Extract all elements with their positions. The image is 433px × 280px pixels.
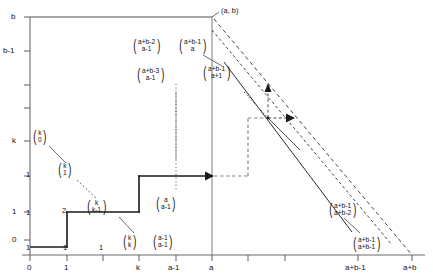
paren-left: ( bbox=[58, 164, 61, 176]
x-tick-label-k: k bbox=[136, 264, 140, 272]
paren-left: ( bbox=[153, 236, 156, 248]
binom-bottom: k bbox=[128, 242, 131, 249]
lattice-number: 1 bbox=[26, 243, 30, 252]
arrow-head-right-at-a bbox=[205, 172, 214, 181]
paren-left: ( bbox=[123, 236, 126, 248]
paren-left: ( bbox=[137, 69, 140, 81]
y-tick-label-b-1: b-1 bbox=[3, 47, 15, 55]
lattice-path-figure: b b-1 k 1 0 0 1 k a-1 a a+b-1 a+b (a, b)… bbox=[0, 0, 433, 280]
binom-bottom: a+b-2 bbox=[334, 210, 351, 217]
x-tick-label-0: 0 bbox=[27, 264, 31, 272]
lattice-number: 1 bbox=[99, 243, 103, 252]
y-tick-label-k: k bbox=[12, 137, 16, 145]
binomial-a-minus-1-choose-a-minus-1: ( a-1 a-1 ) bbox=[152, 235, 174, 249]
binomial-a-choose-a-minus-1: ( a a-1 ) bbox=[155, 197, 177, 211]
paren-left: ( bbox=[329, 204, 332, 216]
x-tick-label-1: 1 bbox=[64, 264, 68, 272]
binomial-a-plus-b-1-choose-a: ( a+b-1 a ) bbox=[178, 39, 207, 53]
paren-left: ( bbox=[33, 131, 36, 143]
paren-right: ) bbox=[377, 238, 380, 250]
paren-right: ) bbox=[203, 40, 206, 52]
paren-right: ) bbox=[172, 198, 175, 210]
binomial-a-plus-b-3-choose-a-minus-1: ( a+b-3 a-1 ) bbox=[136, 68, 165, 82]
binom-bottom: a-1 bbox=[158, 242, 168, 249]
lattice-number: 1 bbox=[26, 170, 30, 179]
paren-right: ) bbox=[68, 164, 71, 176]
x-tick-label-a+b: a+b bbox=[403, 264, 417, 272]
y-tick-label-0: 0 bbox=[12, 236, 16, 244]
paren-right: ) bbox=[169, 236, 172, 248]
paren-right: ) bbox=[103, 201, 106, 213]
binom-bottom: 0 bbox=[38, 137, 42, 144]
paren-left: ( bbox=[133, 40, 136, 52]
arrow-head-up-junction bbox=[265, 83, 272, 92]
x-tick-label-a: a bbox=[209, 264, 213, 272]
paren-right: ) bbox=[227, 67, 230, 79]
paren-right: ) bbox=[43, 131, 46, 143]
paren-right: ) bbox=[353, 204, 356, 216]
lattice-number: 1 bbox=[63, 243, 67, 252]
binomial-k-choose-0: ( k 0 ) bbox=[32, 130, 48, 144]
y-tick-label-b: b bbox=[11, 13, 15, 21]
binom-bottom: a-1 bbox=[161, 204, 171, 211]
binom-bottom: 1 bbox=[63, 170, 67, 177]
binom-bottom: a+b-1 bbox=[358, 244, 375, 251]
x-tick-label-a-1: a-1 bbox=[168, 264, 180, 272]
dashed-hypotenuse-inner bbox=[212, 30, 392, 245]
binomial-a-plus-b-2-choose-a-minus-1: ( a+b-2 a-1 ) bbox=[132, 39, 161, 53]
paren-left: ( bbox=[156, 198, 159, 210]
binom-bottom: k-1 bbox=[92, 207, 101, 214]
arrow-head-right-junction bbox=[286, 114, 295, 123]
x-tick-label-a+b-1: a+b-1 bbox=[345, 264, 366, 272]
binomial-k-choose-1: ( k 1 ) bbox=[57, 163, 73, 177]
x-axis-ticks bbox=[30, 255, 412, 261]
binomial-a-plus-b-1-choose-a-plus-1: ( a+b-1 a+1 ) bbox=[202, 66, 231, 80]
paren-right: ) bbox=[157, 40, 160, 52]
paren-right: ) bbox=[133, 236, 136, 248]
junction-node bbox=[267, 117, 270, 120]
dashed-continuation-path bbox=[214, 118, 268, 176]
y-axis-ticks bbox=[24, 17, 30, 240]
paren-left: ( bbox=[353, 238, 356, 250]
binomial-a-plus-b-1-choose-a-plus-b-2: ( a+b-1 a+b-2 ) bbox=[328, 203, 357, 217]
binom-bottom: a+1 bbox=[211, 73, 222, 80]
binom-bottom: a-1 bbox=[146, 75, 156, 82]
lattice-number: 2 bbox=[62, 206, 66, 215]
y-tick-label-1: 1 bbox=[12, 208, 16, 216]
binomial-k-choose-k-minus-1: ( k k-1 ) bbox=[86, 200, 107, 214]
corner-point-label: (a, b) bbox=[221, 7, 239, 15]
binomial-k-choose-k: ( k k ) bbox=[122, 235, 137, 249]
paren-left: ( bbox=[179, 40, 182, 52]
lattice-number: 1 bbox=[26, 208, 30, 217]
binom-bottom: a-1 bbox=[142, 46, 152, 53]
paren-left: ( bbox=[203, 67, 206, 79]
paren-left: ( bbox=[87, 201, 90, 213]
staircase-path bbox=[31, 176, 205, 247]
paren-right: ) bbox=[161, 69, 164, 81]
binom-bottom: a bbox=[191, 46, 195, 53]
dashed-hypotenuse-outer bbox=[214, 19, 412, 255]
binomial-a-plus-b-1-choose-a-plus-b-1: ( a+b-1 a+b-1 ) bbox=[352, 237, 381, 251]
